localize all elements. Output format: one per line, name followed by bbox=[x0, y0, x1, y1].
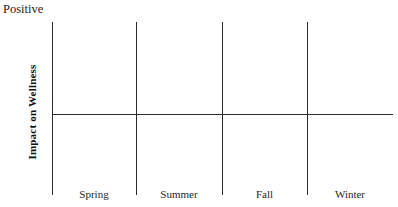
column-label-summer: Summer bbox=[134, 188, 224, 201]
column-divider-line bbox=[136, 22, 137, 195]
column-label-winter: Winter bbox=[305, 188, 395, 201]
zero-baseline-axis bbox=[52, 114, 393, 115]
column-divider-line bbox=[222, 22, 223, 195]
y-axis-title: Impact on Wellness bbox=[26, 64, 38, 159]
seasonal-wellness-chart: Positive Impact on Wellness Spring Summe… bbox=[0, 0, 398, 207]
positive-axis-label: Positive bbox=[3, 2, 43, 16]
column-label-fall: Fall bbox=[220, 188, 310, 201]
column-label-spring: Spring bbox=[49, 188, 139, 201]
column-divider-line bbox=[307, 22, 308, 195]
column-divider-line bbox=[52, 22, 53, 195]
